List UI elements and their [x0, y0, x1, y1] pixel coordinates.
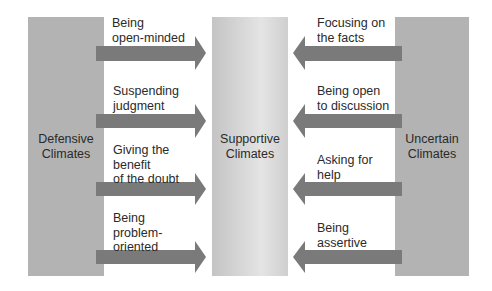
arrow-label-asking-help: Asking for help — [317, 153, 373, 182]
arrow-label-assertive: Being assertive — [317, 221, 367, 250]
arrow-label-open-minded: Being open-minded — [112, 16, 185, 45]
arrow-label-benefit-of-doubt: Giving the benefit of the doubt — [113, 143, 179, 187]
arrows-layer — [0, 0, 492, 291]
arrow-label-problem-oriented: Being problem- oriented — [113, 211, 162, 255]
arrow-label-open-discussion: Being open to discussion — [317, 84, 389, 113]
arrow-label-focusing-facts: Focusing on the facts — [317, 16, 385, 45]
arrow-label-suspending-judgment: Suspending judgment — [113, 84, 179, 113]
